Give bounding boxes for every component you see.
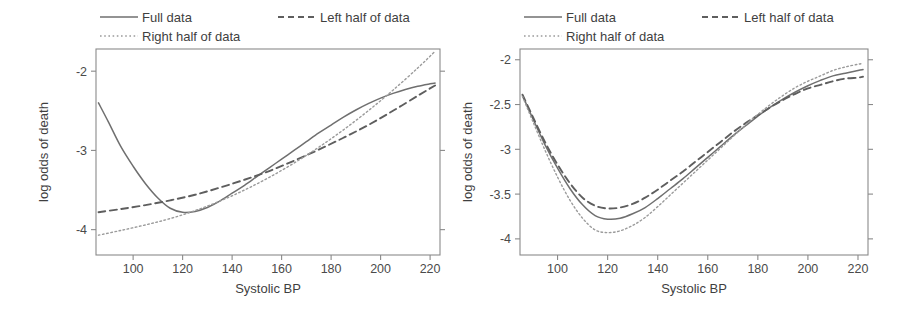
legend-label-1: Left half of data: [320, 10, 410, 25]
y-axis-title: log odds of death: [36, 102, 51, 202]
y-tick-label: -3: [76, 144, 87, 158]
legend-label-1: Left half of data: [744, 10, 834, 25]
legend-label-0: Full data: [142, 10, 193, 25]
chart-right: Full dataLeft half of dataRight half of …: [452, 0, 903, 313]
x-tick-label: 220: [420, 262, 441, 276]
series-line-dashed: [98, 85, 435, 212]
x-tick-label: 180: [747, 262, 768, 276]
x-tick-label: 200: [797, 262, 818, 276]
y-tick-label: -4: [76, 223, 87, 237]
y-axis-title: log odds of death: [460, 102, 475, 202]
x-tick-label: 120: [597, 262, 618, 276]
x-tick-label: 140: [222, 262, 243, 276]
plot-frame: [520, 49, 868, 255]
series-line-dotted: [98, 51, 435, 235]
x-axis-title: Systolic BP: [661, 281, 727, 296]
legend-label-2: Right half of data: [566, 29, 665, 44]
x-tick-label: 160: [271, 262, 292, 276]
x-tick-label: 140: [647, 262, 668, 276]
x-tick-label: 200: [370, 262, 391, 276]
y-tick-label: -3.5: [489, 188, 511, 202]
x-tick-label: 100: [547, 262, 568, 276]
x-axis-title: Systolic BP: [235, 281, 301, 296]
panel-right: Full dataLeft half of dataRight half of …: [452, 0, 903, 313]
y-axis: -2-2.5-3-3.5-4log odds of death: [460, 53, 873, 246]
series-line-dashed: [522, 77, 862, 209]
y-tick-label: -2: [499, 53, 510, 67]
chart-left: Full dataLeft half of dataRight half of …: [0, 0, 452, 313]
x-axis: 100120140160180200220Systolic BP: [123, 255, 441, 296]
figure-container: Full dataLeft half of dataRight half of …: [0, 0, 903, 313]
y-tick-label: -3: [499, 143, 510, 157]
panel-left: Full dataLeft half of dataRight half of …: [0, 0, 452, 313]
series-line-solid: [522, 70, 862, 220]
x-tick-label: 220: [847, 262, 868, 276]
legend: Full dataLeft half of dataRight half of …: [524, 10, 834, 44]
series-group: [522, 63, 862, 232]
legend-label-2: Right half of data: [142, 29, 241, 44]
x-tick-label: 120: [172, 262, 193, 276]
x-tick-label: 180: [321, 262, 342, 276]
x-axis: 100120140160180200220Systolic BP: [547, 255, 868, 296]
x-tick-label: 100: [123, 262, 144, 276]
series-line-solid: [98, 83, 435, 212]
x-tick-label: 160: [697, 262, 718, 276]
legend-label-0: Full data: [566, 10, 617, 25]
y-axis: -2-3-4log odds of death: [36, 65, 445, 237]
legend: Full dataLeft half of dataRight half of …: [100, 10, 410, 44]
y-tick-label: -2.5: [489, 98, 511, 112]
y-tick-label: -2: [76, 65, 87, 79]
series-group: [98, 51, 435, 235]
y-tick-label: -4: [499, 232, 510, 246]
series-line-dotted: [522, 63, 862, 232]
